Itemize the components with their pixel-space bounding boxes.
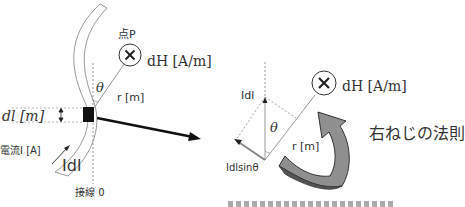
r-label-right: r [m] xyxy=(292,141,319,152)
dl-label: dl [m] xyxy=(2,109,44,123)
r-label-left: r [m] xyxy=(117,92,144,103)
right-hand-rule-label: 右ねじの法則 xyxy=(369,126,465,142)
theta-arc-right xyxy=(265,151,270,153)
zoom-arrow-icon xyxy=(97,118,201,141)
footer-caption-cropped xyxy=(228,201,393,207)
idl-label-left: Idl xyxy=(62,158,81,174)
field-label-left: dH [A/m] xyxy=(147,54,212,68)
idlsin-vector xyxy=(240,143,265,160)
dl-double-arrow-icon xyxy=(59,109,63,122)
current-element xyxy=(83,107,94,122)
idl-label-right: Idl xyxy=(241,90,254,101)
field-into-page-icon xyxy=(119,44,141,66)
theta-label-left: θ xyxy=(96,81,104,94)
projection-dotted-2 xyxy=(236,97,265,140)
point-p-label: 点P xyxy=(118,29,136,40)
field-into-page-icon-right xyxy=(312,71,336,95)
tangent-label: 接線 0 xyxy=(75,188,105,198)
idlsin-label: Idlsinθ xyxy=(226,163,259,173)
projection-dotted-1 xyxy=(265,97,296,118)
current-label: 電流I [A] xyxy=(0,146,41,156)
field-label-right: dH [A/m] xyxy=(342,79,407,93)
theta-label-right: θ xyxy=(270,121,278,134)
